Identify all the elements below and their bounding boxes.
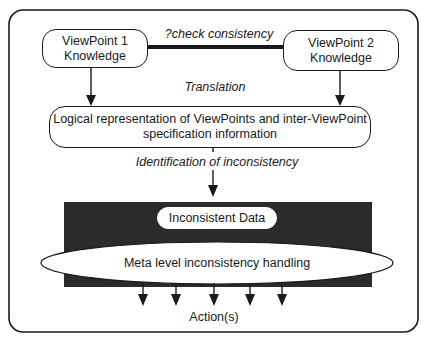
identification-label: Identification of inconsistency (134, 155, 300, 170)
arrow-down-icon (138, 294, 148, 306)
logical-rep-line1: Logical representation of ViewPoints and… (53, 112, 367, 127)
viewpoint-2-line2: Knowledge (310, 51, 372, 66)
translation-label: Translation (184, 80, 246, 95)
arrow-down-icon (86, 95, 96, 106)
viewpoint-1-node: ViewPoint 1 Knowledge (42, 29, 148, 68)
arrow-down-icon (277, 294, 287, 306)
actions-label: Action(s) (180, 310, 248, 325)
inconsistent-data-label: Inconsistent Data (169, 211, 266, 226)
viewpoint-1-line1: ViewPoint 1 (62, 34, 128, 49)
viewpoint-2-line1: ViewPoint 2 (308, 36, 374, 51)
logical-rep-line2: specification information (143, 127, 277, 142)
arrow-down-icon (171, 294, 181, 306)
arrow-down-icon (209, 294, 219, 306)
viewpoint-1-line2: Knowledge (64, 49, 126, 64)
arrow-down-icon (245, 294, 255, 306)
inconsistent-data-node: Inconsistent Data (157, 207, 277, 229)
arrow-down-icon (208, 185, 218, 197)
logical-representation-node: Logical representation of ViewPoints and… (49, 106, 371, 148)
viewpoint-2-node: ViewPoint 2 Knowledge (283, 30, 399, 71)
arrow-down-icon (335, 95, 345, 106)
check-consistency-label: ?check consistency (164, 27, 274, 42)
meta-handling-label: Meta level inconsistency handling (117, 256, 317, 271)
